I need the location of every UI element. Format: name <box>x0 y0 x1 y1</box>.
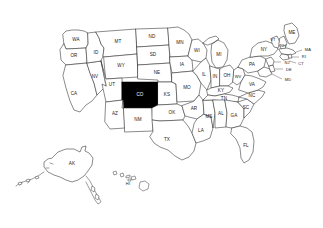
state-label-CT: CT <box>298 61 304 66</box>
hawaii-island-maui <box>131 176 136 180</box>
state-label-WY: WY <box>117 63 125 68</box>
state-label-IN: IN <box>213 74 218 79</box>
leader-line-CT <box>289 61 296 63</box>
state-label-OR: OR <box>70 53 78 58</box>
state-label-WV: WV <box>235 74 242 79</box>
state-label-WI: WI <box>194 48 200 53</box>
state-label-RI: RI <box>302 54 306 59</box>
state-MA[interactable] <box>279 48 296 55</box>
state-label-ND: ND <box>149 34 156 39</box>
state-label-PA: PA <box>249 62 256 67</box>
state-label-AR: AR <box>191 106 198 111</box>
state-label-CA: CA <box>71 91 78 96</box>
state-label-SD: SD <box>150 52 157 57</box>
state-label-OH: OH <box>223 73 230 78</box>
state-label-NJ: NJ <box>284 60 289 65</box>
state-label-KY: KY <box>218 88 224 93</box>
state-label-ID: ID <box>94 50 99 55</box>
state-label-ME: ME <box>288 30 295 35</box>
state-label-GA: GA <box>231 113 239 118</box>
hawaii-island-molokai <box>126 175 130 178</box>
state-label-IL: IL <box>202 72 206 77</box>
state-label-VT: VT <box>270 37 276 42</box>
us-states-map[interactable]: WA OR CA NV ID MT WY UT CO AZ NM ND SD N… <box>0 0 323 228</box>
state-label-MT: MT <box>115 39 122 44</box>
state-label-MI: MI <box>216 52 221 57</box>
state-label-LA: LA <box>198 128 205 133</box>
aleutian-island-1 <box>35 176 39 179</box>
state-label-CO: CO <box>136 92 143 97</box>
state-label-MN: MN <box>176 40 183 45</box>
hawaii-island-kauai <box>113 171 117 175</box>
state-label-SC: SC <box>243 105 250 110</box>
state-label-NM: NM <box>134 117 141 122</box>
state-label-IA: IA <box>180 62 185 67</box>
aleutian-island-3 <box>18 182 22 185</box>
state-NJ[interactable] <box>266 57 274 66</box>
alaska-inset[interactable]: AK <box>16 146 101 204</box>
leader-line-MA <box>296 50 302 52</box>
state-label-NH: NH <box>280 43 286 48</box>
state-label-WA: WA <box>72 37 80 42</box>
state-TX[interactable] <box>150 120 196 160</box>
state-label-OK: OK <box>169 110 177 115</box>
state-label-KS: KS <box>164 92 170 97</box>
state-label-MD: MD <box>285 77 292 82</box>
us-map-figure: WA OR CA NV ID MT WY UT CO AZ NM ND SD N… <box>0 0 323 228</box>
state-label-AL: AL <box>218 111 224 116</box>
state-label-TX: TX <box>164 137 170 142</box>
state-label-MA: MA <box>305 47 311 52</box>
leader-line-MD <box>272 74 282 79</box>
state-CT[interactable] <box>280 54 289 60</box>
state-label-HI: HI <box>126 181 130 186</box>
state-label-NC: NC <box>249 93 256 98</box>
hawaii-island-hawaii <box>139 181 149 191</box>
state-label-FL: FL <box>243 143 249 148</box>
aleutian-island-2 <box>26 179 30 182</box>
panhandle-island-2 <box>95 194 99 200</box>
state-label-MS: MS <box>205 114 212 119</box>
panhandle-island-1 <box>91 186 95 192</box>
hawaii-inset[interactable]: HI <box>113 171 149 191</box>
state-label-MO: MO <box>183 85 191 90</box>
hawaii-island-oahu <box>120 173 124 177</box>
state-label-NV: NV <box>92 74 99 79</box>
state-label-NY: NY <box>261 47 268 52</box>
state-label-UT: UT <box>109 82 115 87</box>
state-label-VA: VA <box>249 82 256 87</box>
state-label-NE: NE <box>154 70 161 75</box>
state-label-AK: AK <box>69 161 76 166</box>
state-label-AZ: AZ <box>112 111 118 116</box>
state-label-DE: DE <box>286 67 292 72</box>
